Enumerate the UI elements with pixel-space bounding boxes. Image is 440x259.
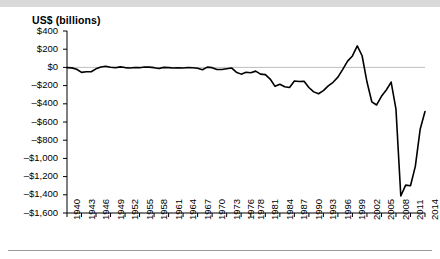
x-axis-tick-label: 2011: [414, 200, 425, 220]
x-axis-tick-label: 1973: [231, 199, 242, 220]
x-axis-tick-label: 1990: [313, 199, 324, 220]
x-axis-tick-label: 1993: [327, 199, 338, 220]
x-axis-tick-label: 1978: [255, 199, 266, 220]
x-axis-tick-label-layer: 1940194319461949195219551958196119641967…: [0, 0, 440, 259]
x-axis-tick-label: 1952: [129, 199, 140, 220]
x-axis-tick-label: 2005: [385, 199, 396, 220]
x-axis-tick-label: 1996: [342, 199, 353, 220]
budget-deficit-chart: US$ (billions) $400$200$0–$200–$400–$600…: [0, 0, 440, 259]
x-axis-tick-label: 1987: [298, 199, 309, 220]
x-axis-tick-label: 1940: [71, 199, 82, 220]
x-axis-tick-label: 1955: [144, 199, 155, 220]
x-axis-tick-label: 1949: [115, 199, 126, 220]
x-axis-tick-label: 1964: [187, 199, 198, 220]
x-axis-tick-label: 2008: [400, 199, 411, 220]
x-axis-tick-label: 1958: [158, 199, 169, 220]
x-axis-tick-label: 1984: [284, 199, 295, 220]
x-axis-tick-label: 1946: [100, 199, 111, 220]
x-axis-tick-label: 2014: [429, 199, 440, 220]
x-axis-tick-label: 1961: [173, 199, 184, 220]
x-axis-tick-label: 1981: [269, 199, 280, 220]
x-axis-tick-label: 1943: [86, 199, 97, 220]
bottom-divider: [8, 250, 432, 251]
x-axis-tick-label: 1967: [202, 199, 213, 220]
x-axis-tick-label: 1999: [356, 199, 367, 220]
x-axis-tick-label: 2002: [371, 199, 382, 220]
x-axis-tick-label: 1970: [216, 199, 227, 220]
